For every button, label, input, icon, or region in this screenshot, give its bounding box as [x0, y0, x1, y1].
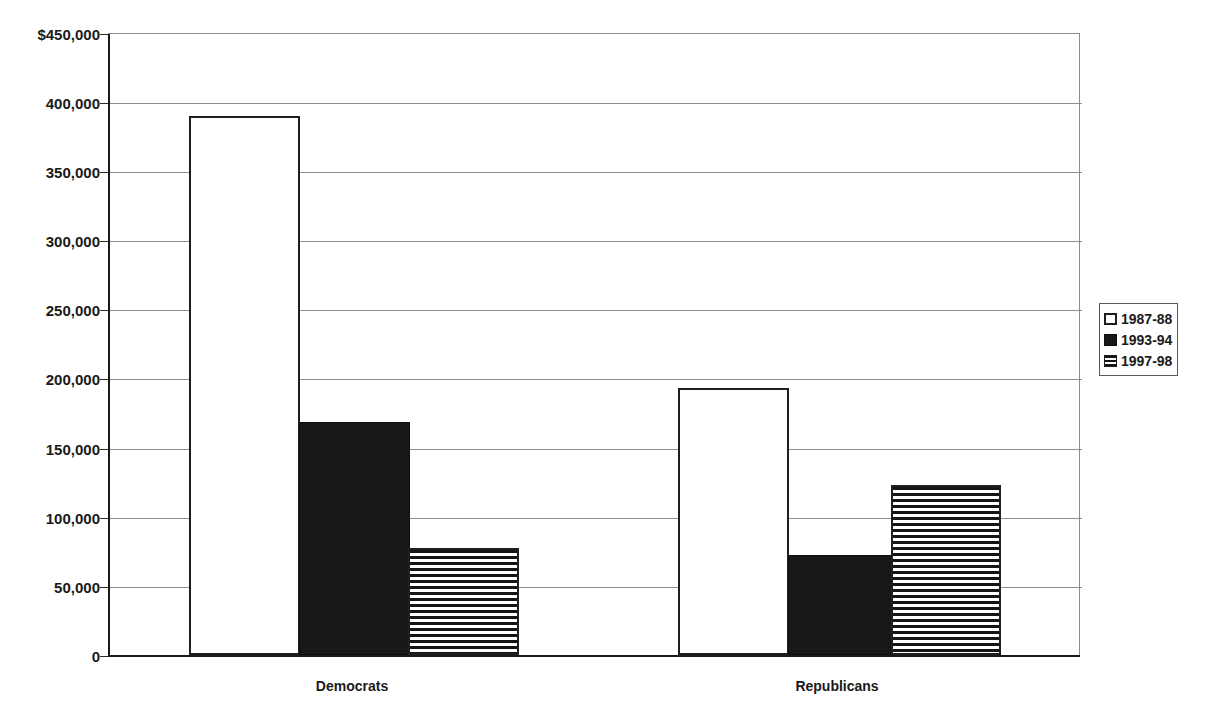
plot-area — [108, 34, 1080, 657]
legend-label-1993-94: 1993-94 — [1121, 333, 1172, 347]
gridline-400000 — [110, 103, 1082, 104]
bar-democrats-1993-94 — [299, 422, 410, 655]
bar-republicans-1997-98 — [891, 485, 1001, 655]
legend-label-1987-88: 1987-88 — [1121, 312, 1172, 326]
y-axis-label-450000: $450,000 — [37, 27, 100, 42]
y-axis-label-150000: 150,000 — [46, 442, 100, 457]
x-axis-label-republicans: Republicans — [676, 678, 998, 694]
legend-item-1993-94: 1993-94 — [1104, 329, 1172, 350]
y-axis-label-350000: 350,000 — [46, 165, 100, 180]
legend-item-1987-88: 1987-88 — [1104, 308, 1172, 329]
bar-democrats-1997-98 — [408, 548, 519, 655]
legend-item-1997-98: 1997-98 — [1104, 350, 1172, 371]
y-axis-label-0: 0 — [92, 649, 100, 664]
bar-chart: $450,000 400,000 350,000 300,000 250,000… — [0, 0, 1213, 713]
bar-republicans-1993-94 — [788, 555, 896, 655]
bar-democrats-1987-88 — [189, 116, 300, 655]
striped-square-icon — [1104, 355, 1117, 367]
y-axis-label-50000: 50,000 — [54, 580, 100, 595]
legend: 1987-88 1993-94 1997-98 — [1099, 303, 1178, 376]
x-axis-label-democrats: Democrats — [187, 678, 517, 694]
y-axis-label-250000: 250,000 — [46, 303, 100, 318]
y-axis-label-400000: 400,000 — [46, 96, 100, 111]
legend-label-1997-98: 1997-98 — [1121, 354, 1172, 368]
white-square-icon — [1104, 313, 1117, 325]
y-axis-label-200000: 200,000 — [46, 372, 100, 387]
bar-republicans-1987-88 — [678, 388, 789, 655]
y-axis-label-300000: 300,000 — [46, 234, 100, 249]
black-square-icon — [1104, 334, 1117, 346]
y-axis-label-100000: 100,000 — [46, 511, 100, 526]
